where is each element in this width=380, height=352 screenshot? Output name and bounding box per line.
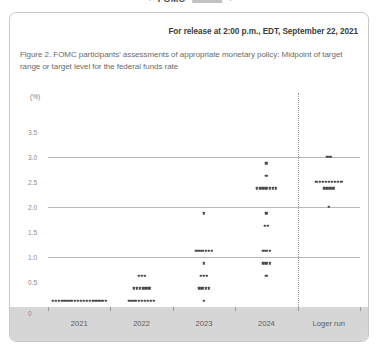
dot-plot-point: [340, 181, 342, 183]
dot-plot-point: [211, 250, 213, 252]
gridline: [48, 157, 360, 158]
dot-plot-point: [200, 275, 202, 277]
dot-plot-point: [201, 250, 203, 252]
dot-plot-point: [262, 187, 264, 189]
y-axis-tick-label: 2.5: [28, 179, 46, 186]
screenshot-root: ‹ FOMC › For release at 2:00 p.m., EDT, …: [0, 0, 380, 352]
x-axis-band: 0 2021202220232024Loger run: [10, 307, 369, 342]
dot-plot-point: [315, 181, 317, 183]
dot-plot-point: [265, 275, 267, 277]
x-axis-tick: [48, 307, 49, 311]
dot-plot-point: [271, 187, 273, 189]
x-axis-label-2023: 2023: [196, 319, 213, 328]
dot-plot-point: [86, 300, 88, 302]
chrome-pill-placeholder: [192, 0, 222, 3]
plot-area: 3.53.02.52.01.51.00.5: [20, 93, 360, 335]
dot-plot-point: [64, 300, 66, 302]
dot-plot-point: [203, 212, 205, 214]
dot-plot-point: [332, 187, 334, 189]
dot-plot-point: [326, 187, 328, 189]
dot-plot-point: [331, 181, 333, 183]
dot-plot-point: [265, 175, 267, 177]
dot-plot-point: [83, 300, 85, 302]
longer-run-divider: [298, 93, 299, 321]
dot-plot-point: [334, 181, 336, 183]
dot-plot-point: [140, 300, 142, 302]
dot-plot-point: [329, 187, 331, 189]
app-chrome-strip: ‹ FOMC ›: [0, 0, 380, 11]
dot-plot-point: [274, 187, 276, 189]
dot-plot-point: [204, 287, 206, 289]
x-axis-label-loger-run: Loger run: [313, 319, 346, 328]
dot-plot-point: [256, 187, 258, 189]
y-axis-tick-label: 0.5: [28, 279, 46, 286]
dot-plot-point: [203, 262, 205, 264]
dot-plot-point: [268, 250, 270, 252]
gridline: [48, 257, 360, 258]
dot-plot-point: [265, 187, 267, 189]
chrome-title: FOMC: [158, 0, 185, 4]
x-axis-tick: [235, 307, 236, 311]
dot-plot-point: [137, 275, 139, 277]
dot-plot-point: [153, 300, 155, 302]
dot-plot-point: [198, 250, 200, 252]
x-axis-label-2024: 2024: [258, 319, 275, 328]
dot-plot-point: [143, 275, 145, 277]
dot-plot-point: [128, 300, 130, 302]
dot-plot-point: [328, 181, 330, 183]
forward-arrow-icon[interactable]: ›: [229, 0, 232, 4]
dot-plot-point: [265, 250, 267, 252]
dot-plot-point: [104, 300, 106, 302]
dot-plot-point: [142, 287, 144, 289]
figure-caption: Figure 2. FOMC participants' assessments…: [20, 49, 360, 73]
dot-plot-point: [98, 300, 100, 302]
dot-plot-point: [265, 212, 267, 214]
dot-plot-point: [150, 300, 152, 302]
dot-plot-point: [145, 287, 147, 289]
dot-plot-point: [259, 187, 261, 189]
y-axis-tick-label: 1.5: [28, 229, 46, 236]
dot-plot-point: [143, 300, 145, 302]
dot-plot-point: [207, 250, 209, 252]
y-axis-tick-label: 3.5: [28, 129, 46, 136]
dot-plot-point: [61, 300, 63, 302]
dot-plot-point: [55, 300, 57, 302]
gridline: [48, 207, 360, 208]
dot-plot-point: [195, 250, 197, 252]
y-axis-tick-label: 1.0: [28, 254, 46, 261]
dot-plot-point: [80, 300, 82, 302]
dot-plot-point: [262, 262, 264, 264]
dot-plot-point: [76, 300, 78, 302]
x-axis-tick: [360, 307, 361, 311]
dot-plot-point: [337, 181, 339, 183]
document-card: For release at 2:00 p.m., EDT, September…: [9, 12, 369, 342]
dot-plot-point: [203, 275, 205, 277]
dot-plot-point: [265, 262, 267, 264]
x-axis-label-2021: 2021: [71, 319, 88, 328]
dot-plot-point: [321, 181, 323, 183]
x-axis-tick: [110, 307, 111, 311]
dot-plot-point: [137, 300, 139, 302]
dot-plot-point: [131, 300, 133, 302]
back-arrow-icon[interactable]: ‹: [148, 0, 151, 4]
dot-plot-point: [206, 275, 208, 277]
x-axis-tick: [298, 307, 299, 311]
x-axis-tick: [173, 307, 174, 311]
dot-plot-point: [70, 300, 72, 302]
dot-plot-point: [92, 300, 94, 302]
dot-plot-point: [265, 162, 267, 164]
dot-plot-point: [204, 250, 206, 252]
dot-plot-point: [134, 300, 136, 302]
dot-plot-point: [203, 300, 205, 302]
dot-plot-point: [198, 287, 200, 289]
dot-plot-point: [58, 300, 60, 302]
dot-plot-point: [268, 262, 270, 264]
dot-plot-point: [101, 300, 103, 302]
dot-plot-point: [140, 275, 142, 277]
y-axis-zero-label: 0: [28, 310, 32, 317]
dot-plot-point: [139, 287, 141, 289]
dot-plot-point: [73, 300, 75, 302]
dot-plot-point: [207, 287, 209, 289]
dot-plot-point: [262, 250, 264, 252]
dot-plot: (%) 3.53.02.52.01.51.00.5: [20, 93, 360, 335]
